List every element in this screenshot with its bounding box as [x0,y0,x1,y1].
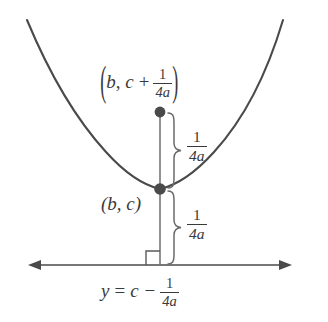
focus-label-open-paren: ( [100,59,106,102]
focus-label-x: b [106,71,116,92]
vertex-point-dot [154,183,166,195]
focus-label-operator: + [134,71,154,92]
lower-distance-label: 14a [187,208,207,242]
upper-fraction-numerator: 1 [187,129,207,147]
lower-brace [168,191,181,264]
axis-left-arrowhead [28,260,41,270]
directrix-fraction: 14a [160,276,179,308]
focus-fraction-numerator: 1 [153,67,172,84]
directrix-equation-label: y=c−14a [101,277,179,309]
right-angle-marker [146,251,160,265]
diagram-canvas [0,0,328,322]
upper-distance-fraction: 14a [187,129,207,163]
focus-point-dot [155,107,166,118]
directrix-operator: − [139,280,161,301]
upper-brace [168,113,181,188]
directrix-rhs-base: c [130,280,138,301]
directrix-equals: = [109,280,130,301]
focus-fraction-denominator: 4a [153,84,172,100]
upper-fraction-denominator: 4a [187,147,207,164]
upper-distance-label: 14a [187,130,207,164]
focus-label-comma: , [116,71,126,92]
directrix-fraction-numerator: 1 [160,276,179,293]
focus-label-close-paren: ) [172,59,178,102]
parabola-diagram: (b, c+14a) (b, c) 14a 14a y=c−14a [0,0,328,322]
parabola-curve [27,20,283,189]
lower-fraction-numerator: 1 [187,207,207,225]
lower-distance-fraction: 14a [187,207,207,241]
focus-point-label: (b, c+14a) [100,68,178,100]
axis-right-arrowhead [279,260,292,270]
focus-label-y-base: c [125,71,133,92]
vertex-point-label: (b, c) [101,194,141,213]
focus-label-fraction: 14a [153,67,172,99]
directrix-fraction-denominator: 4a [160,293,179,309]
lower-fraction-denominator: 4a [187,225,207,242]
